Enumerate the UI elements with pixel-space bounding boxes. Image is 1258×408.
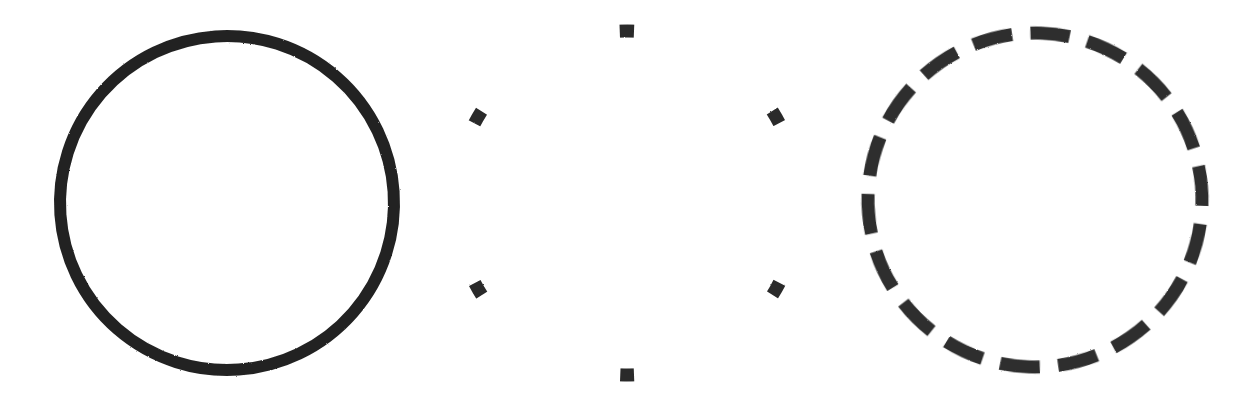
figure-canvas bbox=[0, 0, 1258, 408]
circles-figure bbox=[0, 0, 1258, 408]
background-rect bbox=[0, 0, 1258, 408]
